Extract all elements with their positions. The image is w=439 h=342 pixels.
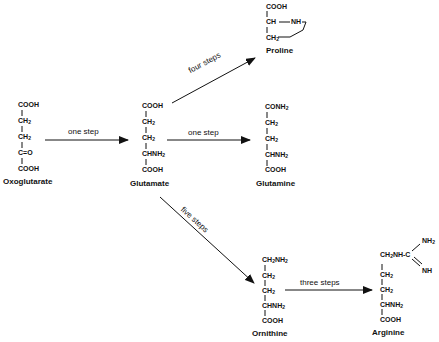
arg-group-1: CH2NH-C: [380, 251, 410, 259]
molecule-name-arginine: Arginine: [372, 328, 404, 337]
pro-group-1: COOH: [266, 3, 287, 11]
arrow-label-oxo-to-glu: one step: [68, 127, 99, 136]
oxo-group-5: COOH: [18, 165, 39, 173]
oxo-group-4: C=O: [18, 149, 33, 157]
arg-group-3: CH2: [380, 286, 393, 294]
orn-group-1: CH2NH2: [262, 256, 288, 264]
orn-group-4: CHNH2: [262, 302, 285, 310]
gln-group-2: CH2: [265, 119, 278, 127]
orn-group-5: COOH: [262, 317, 283, 325]
arrow-label-orn-to-arg: three steps: [300, 278, 340, 287]
molecule-name-proline: Proline: [266, 46, 293, 55]
orn-group-2: CH2: [262, 272, 275, 280]
pro-group-2: CH: [266, 18, 276, 26]
arg-group-nh: NH: [422, 267, 432, 275]
oxo-group-3: CH2: [18, 133, 31, 141]
oxo-group-2: CH2: [18, 117, 31, 125]
oxo-group-1: COOH: [18, 101, 39, 109]
gln-group-5: COOH: [265, 166, 286, 174]
glu-group-5: COOH: [142, 166, 163, 174]
gln-group-4: CHNH2: [265, 151, 288, 159]
pro-group-4: CH2: [266, 34, 279, 42]
glu-group-2: CH2: [142, 118, 155, 126]
molecule-name-ornithine: Ornithine: [252, 329, 288, 338]
molecule-name-glutamine: Glutamine: [256, 179, 295, 188]
molecule-name-glutamate: Glutamate: [130, 179, 169, 188]
glu-group-1: COOH: [142, 102, 163, 110]
molecule-name-oxoglutarate: Oxoglutarate: [3, 177, 52, 186]
arg-group-nh2: NH2: [422, 237, 435, 245]
glu-group-4: CHNH2: [142, 150, 165, 158]
gln-group-3: CH2: [265, 135, 278, 143]
arg-group-4: CHNH2: [380, 301, 403, 309]
pro-group-3: NH: [291, 18, 301, 26]
pathway-diagram-lines: [0, 0, 439, 342]
orn-group-3: CH2: [262, 287, 275, 295]
arrow-label-glu-to-gln: one step: [188, 128, 219, 137]
arg-group-5: COOH: [380, 316, 401, 324]
gln-group-1: CONH2: [265, 103, 288, 111]
glu-group-3: CH2: [142, 134, 155, 142]
arg-group-2: CH2: [380, 271, 393, 279]
